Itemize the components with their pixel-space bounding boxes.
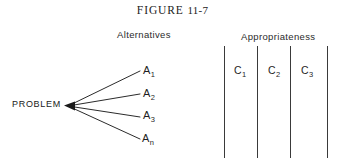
edge-problem-to-a1 <box>68 71 140 106</box>
arrowhead-icon <box>64 102 75 111</box>
alternative-label-2: A2 <box>143 87 155 99</box>
fan-diagram-lines <box>0 0 345 164</box>
criterion-base-1: C <box>234 64 242 76</box>
alternative-base-2: A <box>143 87 150 99</box>
criteria-rule-1 <box>224 46 225 158</box>
criterion-base-3: C <box>301 64 309 76</box>
alternative-subscript-3: 3 <box>151 115 155 124</box>
criterion-subscript-3: 3 <box>309 70 313 79</box>
alternative-subscript-2: 2 <box>151 93 155 102</box>
criterion-label-2: C2 <box>268 64 280 76</box>
criterion-subscript-1: 1 <box>242 70 246 79</box>
criterion-label-1: C1 <box>234 64 246 76</box>
criteria-rule-3 <box>290 46 291 158</box>
alternative-base-3: A <box>143 109 150 121</box>
criteria-rule-2 <box>257 46 258 158</box>
criterion-subscript-2: 2 <box>276 70 280 79</box>
alternative-label-3: A3 <box>143 109 155 121</box>
alternative-base-1: A <box>143 64 150 76</box>
problem-node-label: PROBLEM <box>12 99 61 109</box>
criteria-rule-4 <box>327 46 328 158</box>
edge-problem-to-an <box>68 106 140 139</box>
alternative-subscript-1: 1 <box>151 70 155 79</box>
criterion-base-2: C <box>268 64 276 76</box>
figure-container: FIGURE 11-7 Alternatives Appropriateness… <box>0 0 345 164</box>
criterion-label-3: C3 <box>301 64 313 76</box>
edge-problem-to-a2 <box>68 94 140 106</box>
alternative-subscript-n: n <box>150 138 154 147</box>
alternative-label-n: An <box>142 132 154 144</box>
alternative-label-1: A1 <box>143 64 155 76</box>
alternative-base-n: A <box>142 132 149 144</box>
